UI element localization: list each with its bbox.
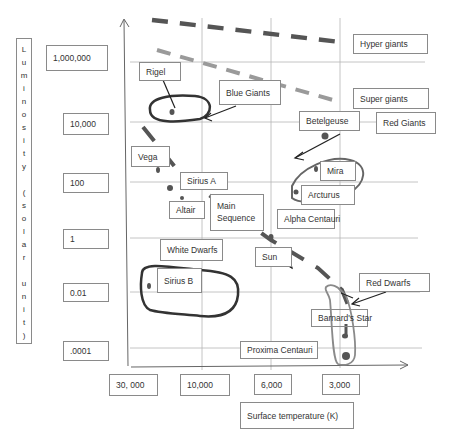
red-dwarfs-label: Red Dwarfs [359, 273, 430, 292]
y-axis-label-char: u [17, 58, 31, 67]
sirius-a-dot [167, 185, 173, 191]
y-axis-label-char: s [17, 201, 31, 210]
hyper-giants-label: Hyper giants [353, 34, 428, 54]
y-axis-label-char: ( [17, 188, 31, 197]
y-tick-100: 100 [63, 173, 109, 193]
y-axis-label-char: n [17, 292, 31, 301]
y-axis-label-char: i [17, 305, 31, 314]
y-tick-1000000: 1,000,000 [46, 45, 108, 71]
altair-dot [180, 196, 184, 200]
x-tick-10000: 10,000 [180, 374, 230, 396]
barnards-star-label: Barnard's Star [311, 309, 368, 327]
y-axis-label-char: i [17, 136, 31, 145]
y-axis-label-char: L [17, 45, 31, 54]
y-axis-label-char: o [17, 110, 31, 119]
proxima-centauri-dot [342, 352, 350, 360]
y-tick-10000: 10,000 [63, 113, 109, 135]
y-axis-label-char: l [17, 227, 31, 236]
y-axis-label-char: m [17, 71, 31, 80]
altair-label: Altair [169, 201, 205, 219]
y-axis-label-char: t [17, 149, 31, 158]
vega-dot [156, 167, 160, 173]
y-axis-label-char: n [17, 97, 31, 106]
rigel-dot [170, 109, 175, 115]
vega-label: Vega [131, 146, 170, 167]
mira-dot [314, 166, 318, 172]
y-tick-0-0001: .0001 [63, 341, 109, 361]
x-tick-3000: 3,000 [322, 374, 360, 395]
y-axis-label-char: t [17, 318, 31, 327]
y-axis-label-char: ) [17, 331, 31, 340]
sirius-a-label: Sirius A [180, 172, 228, 190]
main-sequence-label-line2: Sequence [217, 213, 255, 225]
main-sequence-label: Main Sequence [210, 194, 264, 231]
white-dwarfs-label: White Dwarfs [160, 239, 223, 261]
arcturus-dot [294, 190, 299, 195]
y-axis-label-char: i [17, 84, 31, 93]
y-axis-label-char: r [17, 253, 31, 262]
sirius-b-dot [147, 283, 151, 289]
rigel-label: Rigel [139, 62, 181, 81]
blue-giants-ring [150, 96, 210, 122]
sun-label: Sun [255, 247, 292, 267]
y-tick-1: 1 [63, 229, 109, 249]
sirius-b-label: Sirius B [157, 268, 202, 293]
betelgeuse-dot [322, 133, 329, 140]
betelgeuse-label: Betelgeuse [299, 111, 360, 131]
main-sequence-label-line1: Main [217, 201, 235, 213]
sun-dot [269, 234, 274, 240]
arcturus-label: Arcturus [301, 185, 355, 205]
x-tick-30000: 30, 000 [109, 374, 158, 396]
y-tick-0-01: 0.01 [63, 283, 109, 302]
y-axis-label-char: a [17, 240, 31, 249]
y-axis-label-char: y [17, 162, 31, 171]
y-axis-label: Luminosity(solarunit) [16, 38, 32, 344]
hyper-giants-line [152, 20, 340, 42]
x-axis-label: Surface temperature (K) [240, 402, 354, 429]
red-giants-label: Red Giants [376, 112, 436, 134]
y-axis-label-char: o [17, 214, 31, 223]
mira-label: Mira [320, 161, 356, 181]
x-tick-6000: 6,000 [254, 374, 292, 395]
blue-giants-label: Blue Giants [219, 80, 281, 105]
y-axis-label-char: u [17, 279, 31, 288]
proxima-centauri-label: Proxima Centauri [240, 341, 318, 359]
alpha-centauri-label: Alpha Centauri [277, 209, 335, 229]
y-axis-label-char: s [17, 123, 31, 132]
super-giants-label: Super giants [353, 88, 429, 109]
